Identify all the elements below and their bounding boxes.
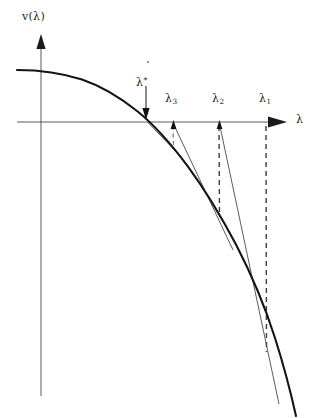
drop-line-lambda-2	[219, 126, 220, 214]
lambda-star-base: λ	[136, 76, 143, 89]
lambda-3-subscript: 3	[172, 97, 177, 106]
lambda-2-base: λ	[212, 92, 219, 105]
lambda-1-base: λ	[259, 92, 266, 105]
up-arrowhead-lambda-3-icon	[171, 120, 177, 129]
drop-line-lambda-3	[173, 126, 174, 148]
lambda-star-arrowhead-icon	[142, 108, 149, 120]
lambda-3-base: λ	[165, 92, 172, 105]
up-arrowhead-lambda-2-icon	[217, 120, 223, 129]
label-lambda-star: λ*	[136, 77, 147, 88]
x-axis-arrowhead-icon	[268, 117, 287, 128]
drop-line-lambda-1	[266, 126, 267, 352]
y-axis-arrowhead-icon	[36, 34, 45, 49]
ink-speck	[147, 61, 149, 63]
y-axis-label: v(λ)	[22, 11, 45, 22]
lambda-1-subscript: 1	[266, 97, 271, 106]
x-axis-label: λ	[296, 114, 303, 125]
lambda-star-superscript: *	[143, 76, 147, 85]
label-lambda-3: λ3	[165, 93, 177, 105]
tangent-line-lambda-1	[220, 124, 280, 404]
plot-svg	[0, 0, 324, 418]
lambda-2-subscript: 2	[219, 97, 224, 106]
label-lambda-1: λ1	[259, 93, 271, 105]
figure-canvas: v(λ) λ λ* λ3 λ2 λ1	[0, 0, 324, 418]
label-lambda-2: λ2	[212, 93, 224, 105]
